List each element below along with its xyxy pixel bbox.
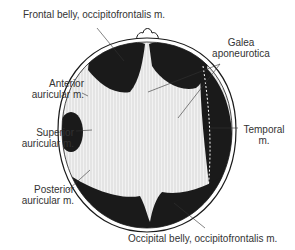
label-frontal-belly: Frontal belly, occipitofrontalis m. xyxy=(23,9,165,20)
label-galea-aponeurotica: Galea aponeurotica xyxy=(206,37,276,59)
label-posterior-auricular: Posterior auricular m. xyxy=(8,184,74,206)
label-temporal: Temporal m. xyxy=(240,124,288,146)
scalp-muscles-diagram: Frontal belly, occipitofrontalis m. Gale… xyxy=(0,0,295,250)
label-superior-auricular: Superior auricular m. xyxy=(8,127,74,149)
label-occipital-belly: Occipital belly, occipitofrontalis m. xyxy=(128,233,277,244)
label-anterior-auricular: Anterior auricular m. xyxy=(8,78,84,100)
